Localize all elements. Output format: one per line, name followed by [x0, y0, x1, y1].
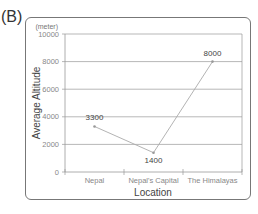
category-labels: NepalNepal's CapitalThe Himalayas — [85, 176, 238, 185]
y-unit-label: (meter) — [35, 23, 58, 31]
y-tick-label: 10000 — [38, 30, 59, 39]
y-axis-title: Average Altitude — [31, 66, 42, 139]
y-tick-label: 6000 — [42, 85, 59, 94]
category-label: Nepal — [85, 176, 105, 185]
data-label: 1400 — [145, 156, 163, 165]
y-tick-label: 2000 — [42, 140, 59, 149]
data-point — [211, 60, 214, 63]
data-point — [93, 125, 96, 128]
category-label: The Himalayas — [187, 176, 237, 185]
data-labels: 330014008000 — [86, 49, 222, 165]
y-tick-label: 0 — [55, 168, 59, 177]
category-label: Nepal's Capital — [128, 176, 179, 185]
line-chart: 0200040006000800010000 (meter) NepalNepa… — [0, 0, 258, 214]
data-line — [95, 62, 213, 153]
data-label: 8000 — [204, 49, 222, 58]
x-axis-title: Location — [134, 187, 172, 198]
data-point — [152, 151, 155, 154]
data-label: 3300 — [86, 113, 104, 122]
y-tick-labels: 0200040006000800010000 — [38, 30, 65, 177]
data-points — [93, 60, 214, 154]
y-tick-label: 8000 — [42, 57, 59, 66]
y-tick-label: 4000 — [42, 112, 59, 121]
